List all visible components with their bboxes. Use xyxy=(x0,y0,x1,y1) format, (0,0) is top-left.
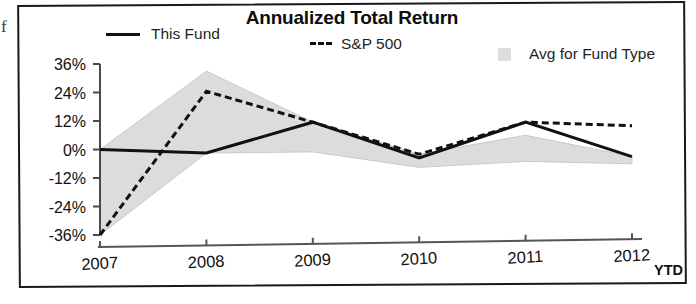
x-tick-label-2010: 2010 xyxy=(400,248,438,268)
y-tick-label-36%: 36% xyxy=(54,56,86,73)
x-tick-label-2009: 2009 xyxy=(294,250,332,270)
x-tick-label-2012: 2012 xyxy=(613,245,651,265)
plot-area: 36%24%12%0%-12%-24%-36%20072008200920102… xyxy=(20,5,688,288)
chart-frame: Annualized Total Return This Fund S&P 50… xyxy=(17,1,687,288)
y-tick-label--12%: -12% xyxy=(49,170,86,187)
chart-svg: 36%24%12%0%-12%-24%-36%20072008200920102… xyxy=(20,5,688,288)
ytd-label: YTD xyxy=(654,262,683,278)
y-tick-label--36%: -36% xyxy=(49,227,86,244)
y-tick-label--24%: -24% xyxy=(49,199,86,216)
y-tick-label-24%: 24% xyxy=(54,85,86,102)
y-tick-label-12%: 12% xyxy=(54,113,86,130)
y-tick-label-0%: 0% xyxy=(63,142,86,159)
x-tick-label-2011: 2011 xyxy=(507,247,543,267)
x-tick-label-2008: 2008 xyxy=(187,251,225,271)
x-axis-line xyxy=(98,239,642,247)
x-tick-label-2007: 2007 xyxy=(81,253,119,273)
scan-edge-glyph: f xyxy=(1,18,7,35)
